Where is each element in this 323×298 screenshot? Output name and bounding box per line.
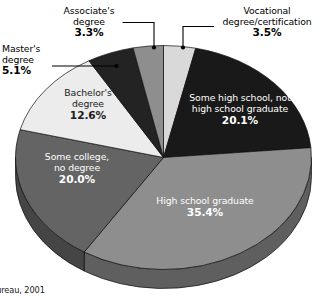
pie-label-some-college-percent: 20.0% [21, 174, 133, 185]
pie-label-masters-degree: Master's degree 5.1% [2, 44, 62, 76]
pie-label-bachelors-degree: Bachelor's degree 12.6% [40, 88, 136, 120]
pie-label-associates-degree-line1: Associate's [53, 6, 125, 17]
pie-label-associates-degree-percent: 3.3% [53, 27, 125, 38]
pie-label-associates-degree: Associate's degree 3.3% [53, 6, 125, 38]
pie-label-vocational-degree: Vocational degree/certification 3.5% [213, 6, 321, 38]
pie-label-high-school-graduate-percent: 35.4% [143, 207, 267, 218]
leader-line-vocational-degree [183, 27, 214, 47]
pie-label-some-college-line2: no degree [21, 163, 133, 174]
leader-dot-vocational-degree [181, 45, 185, 49]
pie-label-some-high-school-line2: high school graduate [176, 104, 304, 115]
pie-label-some-high-school-percent: 20.1% [176, 115, 304, 126]
pie-label-vocational-degree-percent: 3.5% [213, 27, 321, 38]
pie-label-bachelors-degree-line2: degree [40, 99, 136, 110]
pie-label-some-college: Some college, no degree 20.0% [21, 152, 133, 184]
source-attribution: s Bureau, 2001 [0, 285, 45, 295]
pie-label-masters-degree-line1: Master's [2, 44, 62, 55]
pie-label-masters-degree-percent: 5.1% [2, 65, 62, 76]
leader-dot-masters-degree [114, 64, 118, 68]
leader-line-associates-degree [123, 23, 155, 47]
pie-label-high-school-graduate: High school graduate 35.4% [143, 196, 267, 218]
pie-label-some-high-school: Some high school, not high school gradua… [176, 93, 304, 125]
pie-label-bachelors-degree-percent: 12.6% [40, 110, 136, 121]
pie-label-vocational-degree-line1: Vocational [213, 6, 321, 17]
pie-chart-figure: Associate's degree 3.3% Vocational degre… [0, 0, 323, 298]
leader-dot-associates-degree [152, 45, 156, 49]
